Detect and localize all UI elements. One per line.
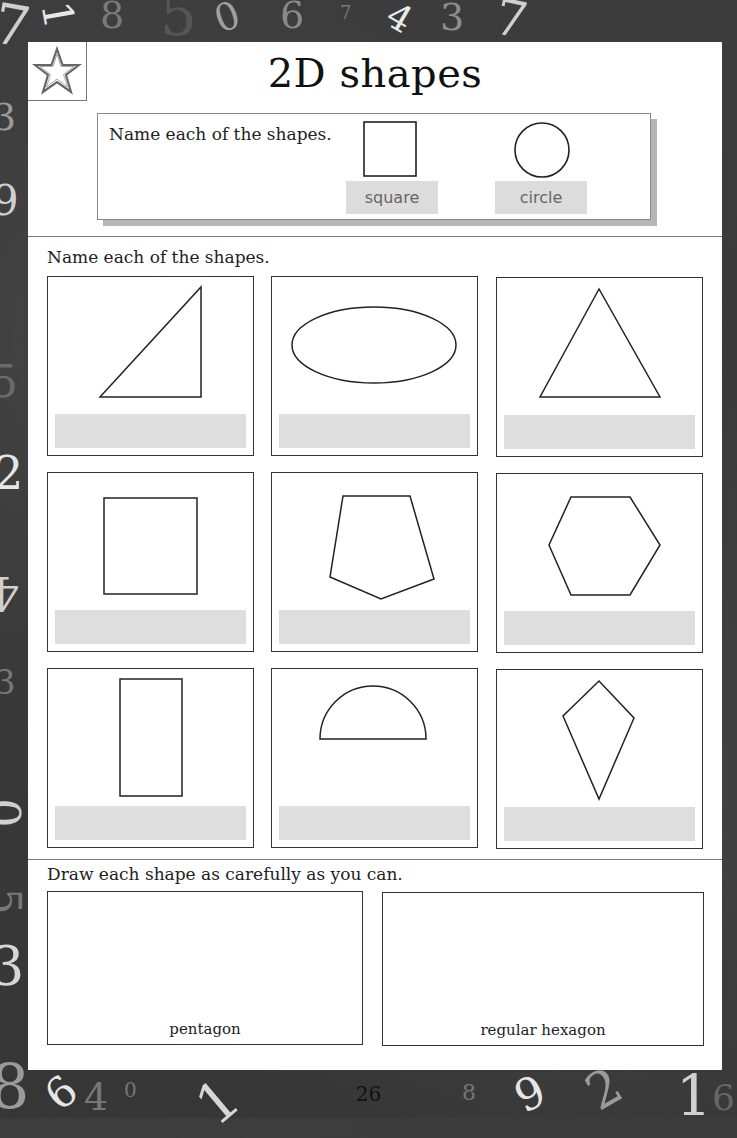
shape-cell-square [47,472,254,652]
draw-box-pentagon[interactable]: pentagon [47,891,363,1045]
shape-cell-ellipse [271,276,478,456]
answer-field[interactable] [504,415,695,449]
draw-box-label: pentagon [48,1020,362,1038]
example-label-circle: circle [495,181,587,214]
page-title: 2D shapes [28,50,722,96]
answer-field[interactable] [55,414,246,448]
shape-cell-semicircle [271,668,478,848]
section-divider [28,859,722,860]
shape-cell-right-triangle [47,276,254,456]
shape-cell-rectangle [47,668,254,848]
bg-numeral: 5 [0,888,26,915]
example-instruction: Name each of the shapes. [109,124,332,144]
bg-numeral: 3 [0,98,16,136]
bg-numeral: 3 [0,940,24,994]
example-label-square: square [346,181,438,214]
bg-numeral: 0 [0,798,26,827]
bg-numeral: 2 [0,450,23,496]
answer-field[interactable] [55,806,246,840]
answer-field[interactable] [279,414,470,448]
shape-cell-pentagon [271,472,478,652]
bg-numeral: 6 [280,0,304,34]
answer-field[interactable] [279,806,470,840]
bg-numeral: 4 [381,0,419,39]
bg-numeral: 0 [209,0,245,39]
draw-box-label: regular hexagon [383,1021,703,1039]
name-section-instruction: Name each of the shapes. [47,247,270,267]
answer-field[interactable] [504,611,695,645]
bg-numeral: 5 [160,0,197,44]
bg-numeral: 1 [34,0,80,32]
shape-cell-hexagon [496,473,703,653]
bg-numeral: 3 [440,0,464,36]
worksheet-page: 2D shapes Name each of the shapes. squar… [28,42,722,1070]
bg-numeral: 9 [0,180,19,222]
bg-numeral: 7 [340,4,351,22]
page-number: 26 [0,1082,737,1106]
shape-cell-equilateral-triangle [496,277,703,457]
answer-field[interactable] [279,610,470,644]
section-divider [28,236,722,237]
draw-section-instruction: Draw each shape as carefully as you can. [47,864,403,884]
shape-cell-kite [496,669,703,849]
circle-shape [512,120,572,180]
bg-numeral: 5 [0,360,18,404]
example-panel: Name each of the shapes. square circle [97,113,651,220]
bg-numeral: 4 [0,570,19,616]
draw-box-regular-hexagon[interactable]: regular hexagon [382,892,704,1046]
bg-numeral: 3 [0,665,16,699]
square-shape [362,120,418,178]
bg-numeral: 7 [490,0,532,47]
answer-field[interactable] [55,610,246,644]
bg-numeral: 8 [100,0,124,34]
answer-field[interactable] [504,807,695,841]
